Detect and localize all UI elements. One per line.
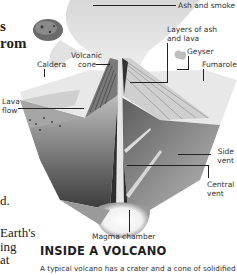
leader-line bbox=[18, 108, 84, 109]
leader-line bbox=[44, 69, 45, 77]
body-text-fragment: s bbox=[0, 18, 6, 34]
label-volcanic-cone-line1: Volcanic bbox=[71, 51, 102, 60]
leader-line bbox=[203, 69, 204, 81]
leader-line bbox=[188, 56, 189, 69]
book-page: s rom d. Earth's ing at Ash and smoke La… bbox=[0, 0, 237, 275]
leader-line bbox=[93, 5, 176, 6]
leader-line bbox=[178, 154, 211, 155]
label-caldera: Caldera bbox=[37, 60, 66, 69]
label-side-vent-line1: Side bbox=[208, 147, 234, 156]
label-lava-flow-line1: Lava bbox=[2, 97, 20, 106]
label-lava-flow-line2: flow bbox=[2, 106, 17, 115]
label-magma-chamber: Magma chamber bbox=[92, 232, 155, 241]
leader-line bbox=[127, 165, 209, 166]
label-central-vent-line1: Central bbox=[207, 180, 234, 189]
leader-line bbox=[208, 165, 209, 178]
label-volcanic-cone-line2: cone bbox=[78, 60, 96, 69]
section-heading: INSIDE A VOLCANO bbox=[40, 244, 167, 258]
label-central-vent-line2: vent bbox=[207, 189, 224, 198]
body-text-fragment: d. bbox=[0, 194, 10, 207]
leader-line bbox=[96, 64, 110, 65]
leader-line bbox=[129, 210, 130, 232]
label-fumarole: Fumarole bbox=[202, 60, 237, 69]
body-text-fragment: rom bbox=[0, 35, 26, 51]
leader-line bbox=[167, 43, 168, 83]
label-side-vent-line2: vent bbox=[208, 156, 234, 165]
label-layers-line1: Layers of ash bbox=[167, 25, 217, 34]
label-geyser: Geyser bbox=[187, 47, 213, 56]
section-caption: A typical volcano has a crater and a con… bbox=[40, 264, 236, 273]
leader-line bbox=[177, 69, 189, 70]
leader-line bbox=[130, 82, 168, 83]
label-layers-line2: and lava bbox=[167, 34, 199, 43]
body-text-fragment: Earth's bbox=[0, 226, 36, 239]
body-text-fragment: at bbox=[0, 253, 9, 266]
label-ash-and-smoke: Ash and smoke bbox=[178, 1, 235, 10]
